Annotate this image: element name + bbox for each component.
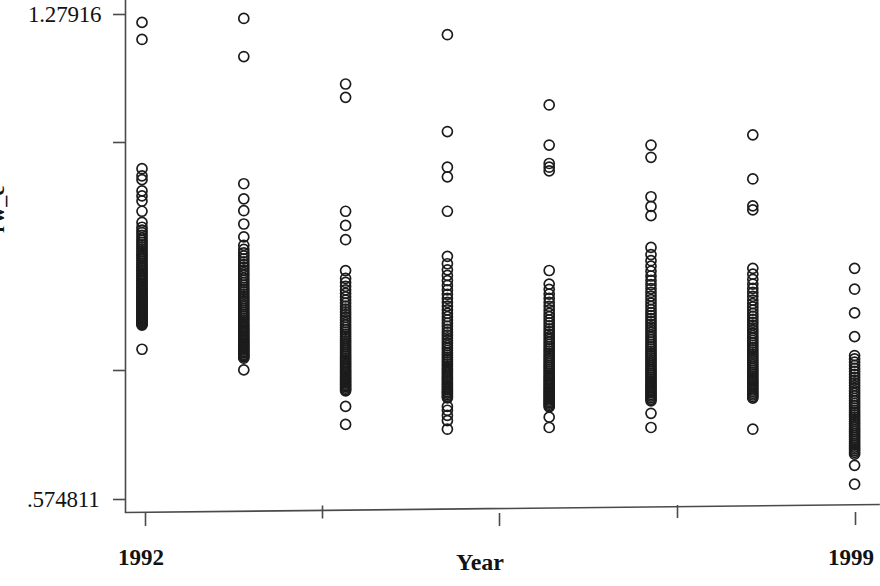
x-axis-title: Year	[456, 549, 504, 576]
data-point	[239, 206, 249, 216]
y-axis-title: rw_c	[0, 185, 10, 233]
data-point	[646, 140, 656, 150]
data-point	[442, 206, 452, 216]
data-point	[341, 92, 351, 102]
plot-canvas	[0, 0, 880, 586]
data-point	[850, 479, 860, 489]
data-point	[544, 422, 554, 432]
data-point	[442, 172, 452, 182]
data-point	[646, 152, 656, 162]
scatter-plot-figure: 1.27916 .574811 rw_c 1992 1999 Year	[0, 0, 880, 586]
data-point	[239, 219, 249, 229]
x-axis-min-label: 1992	[118, 545, 164, 571]
axis-group	[113, 0, 879, 526]
data-point	[850, 284, 860, 294]
data-point	[341, 401, 351, 411]
data-point	[341, 79, 351, 89]
data-point	[341, 419, 351, 429]
data-point	[137, 344, 147, 354]
data-point	[239, 365, 249, 375]
data-point	[748, 174, 758, 184]
data-point	[341, 206, 351, 216]
x-axis-max-label: 1999	[828, 545, 874, 571]
data-point	[239, 179, 249, 189]
data-point	[850, 332, 860, 342]
data-point	[137, 34, 147, 44]
data-point	[544, 100, 554, 110]
data-point	[137, 206, 147, 216]
data-point	[341, 220, 351, 230]
data-point	[239, 52, 249, 62]
data-point	[850, 263, 860, 273]
data-point	[341, 235, 351, 245]
data-point	[850, 308, 860, 318]
data-point	[646, 408, 656, 418]
data-point	[137, 17, 147, 27]
data-point	[646, 422, 656, 432]
y-axis-ticks	[113, 15, 126, 500]
data-point	[748, 130, 758, 140]
x-axis-line	[126, 505, 880, 513]
data-point	[442, 162, 452, 172]
y-axis-max-label: 1.27916	[28, 2, 101, 28]
data-point	[544, 140, 554, 150]
data-point	[646, 192, 656, 202]
data-markers-group	[137, 13, 860, 489]
data-point	[850, 460, 860, 470]
data-point	[239, 194, 249, 204]
data-point	[442, 30, 452, 40]
data-point	[748, 424, 758, 434]
data-point	[239, 13, 249, 23]
data-point	[544, 265, 554, 275]
data-point	[442, 127, 452, 137]
data-point	[544, 412, 554, 422]
y-axis-min-label: .574811	[27, 487, 100, 513]
